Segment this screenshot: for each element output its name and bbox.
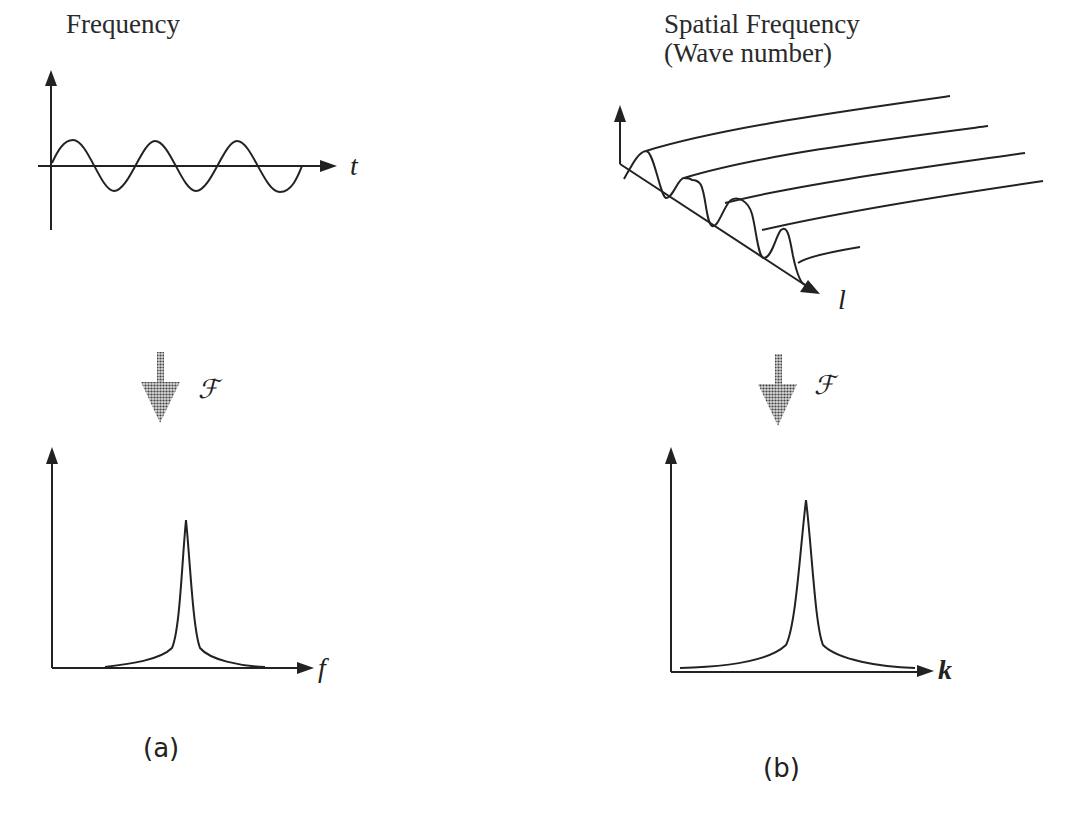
fourier-symbol-a: ℱ: [198, 374, 218, 404]
spectrum-plot-b: [665, 447, 934, 677]
fourier-arrow-a: [141, 352, 180, 423]
ridge-2: [684, 126, 988, 178]
caption-b: (b): [763, 753, 800, 783]
f-axis-label: f: [318, 652, 326, 684]
ridge-5: [798, 247, 860, 263]
l-axis-arrowhead: [800, 280, 820, 294]
panel-a-title: Frequency: [66, 10, 180, 39]
l-axis: [620, 164, 805, 285]
spatial-wave-plot: [614, 96, 1043, 294]
panel-b-title-line2: (Wave number): [664, 39, 832, 68]
ridge-4: [762, 181, 1043, 230]
time-signal-plot: [38, 70, 337, 230]
y-axis-arrowhead: [45, 70, 57, 86]
vertical-axis-arrowhead: [614, 105, 626, 122]
ridge-1: [646, 96, 950, 151]
y-axis-arrowhead: [46, 447, 58, 464]
k-axis-label: k: [938, 654, 952, 686]
l-axis-label: l: [838, 284, 846, 316]
t-axis-label: t: [350, 150, 358, 182]
k-axis-arrowhead: [917, 665, 934, 677]
ridge-3: [725, 153, 1025, 203]
t-axis-arrowhead: [320, 160, 337, 172]
fourier-symbol-b: ℱ: [814, 370, 834, 400]
spectrum-peak-a: [105, 520, 265, 667]
y-axis-arrowhead: [665, 447, 677, 464]
spatial-sine: [624, 151, 806, 285]
spectrum-plot-a: [46, 447, 314, 674]
caption-a: (a): [143, 733, 179, 763]
f-axis-arrowhead: [297, 662, 314, 674]
figure-canvas: [0, 0, 1075, 819]
panel-b-title-line1: Spatial Frequency: [664, 10, 860, 39]
spectrum-peak-b: [680, 500, 915, 668]
fourier-arrow-b: [758, 354, 797, 426]
